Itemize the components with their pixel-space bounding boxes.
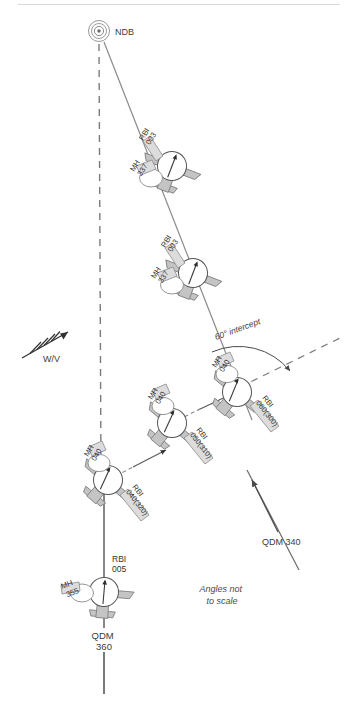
scale-disclaimer-note: Angles not to scale <box>198 584 244 606</box>
svg-text:RBI 003: RBI 003 <box>137 125 159 147</box>
ndb-symbol <box>89 21 110 42</box>
aircraft-6-rbi-line1: RBI <box>112 554 126 564</box>
aircraft-6-rbi-line2: 005 <box>112 564 126 574</box>
qdm-340-label: QDM 340 <box>262 537 301 547</box>
aircraft-5-rbi-callout: RBI 040(320) <box>120 483 157 521</box>
svg-text:RBI 003: RBI 003 <box>159 232 181 254</box>
ndb-label: NDB <box>115 27 134 37</box>
qdm-360-label: QDM 360 <box>92 630 117 652</box>
qdm-360-line2: 360 <box>96 641 112 652</box>
track-ac5-to-ac4 <box>133 450 166 467</box>
scale-note-line2: to scale <box>206 596 237 606</box>
diagram-canvas: NDB W/V 60° intercept RBI 003 MH 337 <box>0 0 358 704</box>
qdm-340-arrow <box>252 480 278 532</box>
aircraft-4-rbi-callout: RBI 050(310) <box>184 426 221 464</box>
wind-velocity-label: W/V <box>43 354 60 364</box>
qdm-360-dashed-reference <box>99 44 101 470</box>
aircraft-6-mh-callout: MH 355 <box>60 577 94 602</box>
qdm-360-line1: QDM <box>92 630 114 641</box>
scale-note-line1: Angles not <box>198 584 242 594</box>
ndb-intercept-diagram: NDB W/V 60° intercept RBI 003 MH 337 <box>0 0 358 704</box>
intercept-angle-label: 60° intercept <box>213 316 262 342</box>
aircraft-6-rbi-label: RBI 005 <box>112 554 129 574</box>
aircraft-3-rbi-callout: RBI 060(300) <box>250 394 287 432</box>
